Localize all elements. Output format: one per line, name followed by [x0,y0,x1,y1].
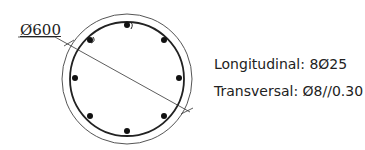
stirrup [70,22,184,136]
transversal-label: Transversal: Ø8//0.30 [214,83,363,99]
diameter-label: Ø600 [20,21,61,39]
rebars [72,22,182,134]
longitudinal-label: Longitudinal: 8Ø25 [214,56,347,72]
concrete-outline [62,14,192,144]
dimension-leader [18,37,193,114]
